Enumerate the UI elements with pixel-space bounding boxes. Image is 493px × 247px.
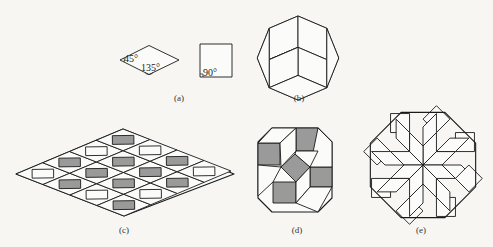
- rhombus-tile: [32, 169, 54, 178]
- square-tile-shaded: [113, 179, 135, 188]
- square-tile-shaded: [273, 182, 296, 203]
- angle-label-90: 90°: [203, 67, 217, 78]
- square-tile-shaded: [166, 156, 188, 165]
- square-tile-shaded: [167, 178, 189, 187]
- square-tile-shaded: [112, 135, 134, 144]
- square-tile-shaded: [258, 143, 280, 165]
- rhombus-tile: [86, 190, 108, 199]
- panel-label-e: (e): [416, 225, 426, 235]
- square-tile-shaded: [59, 180, 81, 189]
- angle-label-135: 135°: [141, 62, 160, 73]
- rhombus-tile: [139, 146, 161, 155]
- square-tile-shaded: [113, 201, 135, 210]
- square-tile-shaded: [113, 157, 135, 166]
- angle-label-45: 45°: [124, 53, 138, 64]
- rhombus-tile: [86, 147, 108, 156]
- rhombus-tile: [140, 189, 162, 198]
- square-tile-shaded: [86, 168, 108, 177]
- square-tile-shaded: [310, 167, 332, 187]
- rhombus-b: [257, 28, 269, 87]
- tiling-diagram: [0, 0, 493, 247]
- square-tile-shaded: [59, 158, 81, 167]
- panel-label-a: (a): [174, 93, 184, 103]
- rhombus-b: [327, 28, 339, 87]
- rhombus-tile: [193, 167, 215, 176]
- panel-label-c: (c): [119, 225, 129, 235]
- panel-label-d: (d): [292, 225, 303, 235]
- panel-label-b: (b): [294, 93, 305, 103]
- square-tile-shaded: [140, 168, 162, 177]
